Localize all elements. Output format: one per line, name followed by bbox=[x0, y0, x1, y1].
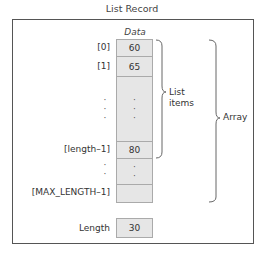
list-items-label-line1: List bbox=[169, 87, 194, 98]
list-items-brace-icon bbox=[156, 40, 166, 158]
list-items-label: List items bbox=[169, 87, 194, 109]
length-value: 30 bbox=[129, 223, 140, 233]
brace-lines bbox=[0, 0, 264, 255]
length-value-box: 30 bbox=[116, 218, 153, 238]
length-label: Length bbox=[79, 223, 110, 233]
array-label: Array bbox=[223, 112, 247, 123]
list-items-label-line2: items bbox=[169, 98, 194, 109]
array-brace-icon bbox=[209, 40, 220, 202]
